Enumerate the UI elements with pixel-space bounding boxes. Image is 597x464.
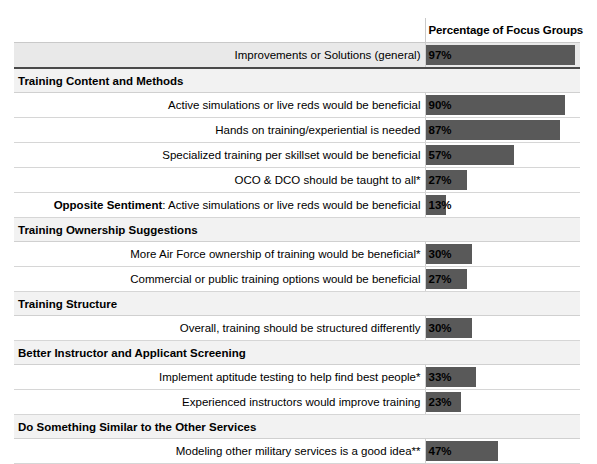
row-value-cell: 47% [425, 439, 580, 464]
table-row: Experienced instructors would improve tr… [14, 390, 580, 415]
row-label: Hands on training/experiential is needed [14, 118, 425, 143]
row-value-cell: 27% [425, 168, 580, 193]
value-label: 47% [429, 440, 452, 462]
row-label-text: More Air Force ownership of training wou… [130, 248, 420, 260]
row-value-cell: 30% [425, 242, 580, 267]
row-label-text: Implement aptitude testing to help find … [159, 371, 420, 383]
row-label-text: Hands on training/experiential is needed [215, 124, 420, 136]
bar-wrapper: 90% [426, 94, 581, 116]
row-label: More Air Force ownership of training wou… [14, 242, 425, 267]
header-label-cell [14, 18, 425, 43]
table-row: Specialized training per skillset would … [14, 143, 580, 168]
section-header-row: Do Something Similar to the Other Servic… [14, 415, 580, 439]
table-row: OCO & DCO should be taught to all*27% [14, 168, 580, 193]
section-header-row: Better Instructor and Applicant Screenin… [14, 341, 580, 365]
row-label-text: Overall, training should be structured d… [180, 322, 421, 334]
bar-wrapper: 30% [426, 243, 581, 265]
table-row: Overall, training should be structured d… [14, 316, 580, 341]
value-label: 27% [429, 169, 452, 191]
row-label-lead: Opposite Sentiment [54, 199, 163, 211]
row-label: Implement aptitude testing to help find … [14, 365, 425, 390]
row-value-cell: 23% [425, 390, 580, 415]
row-label: Commercial or public training options wo… [14, 267, 425, 292]
value-label: 30% [429, 317, 452, 339]
row-value-cell: 87% [425, 118, 580, 143]
row-label-text: OCO & DCO should be taught to all* [234, 174, 420, 186]
row-label-text: Improvements or Solutions (general) [235, 49, 421, 61]
section-title: Better Instructor and Applicant Screenin… [14, 341, 580, 365]
table-body: Percentage of Focus Groups Improvements … [14, 18, 580, 464]
bar-wrapper: 27% [426, 169, 581, 191]
bar-wrapper: 87% [426, 119, 581, 141]
value-label: 30% [429, 243, 452, 265]
bar-wrapper: 57% [426, 144, 581, 166]
row-label-text: : Active simulations or live reds would … [162, 199, 420, 211]
bar-wrapper: 13% [426, 194, 581, 216]
header-percentage-of-focus-groups: Percentage of Focus Groups [425, 18, 580, 43]
value-label: 90% [429, 94, 452, 116]
value-label: 27% [429, 268, 452, 290]
value-label: 13% [429, 194, 452, 216]
row-value-cell: 90% [425, 93, 580, 118]
row-label: Improvements or Solutions (general) [14, 43, 425, 69]
bar-wrapper: 30% [426, 317, 581, 339]
section-title: Training Ownership Suggestions [14, 218, 580, 242]
value-label: 23% [429, 391, 452, 413]
section-title: Training Structure [14, 292, 580, 316]
section-title: Do Something Similar to the Other Servic… [14, 415, 580, 439]
section-header-row: Training Content and Methods [14, 68, 580, 93]
row-value-cell: 27% [425, 267, 580, 292]
row-label: Specialized training per skillset would … [14, 143, 425, 168]
row-label-text: Modeling other military services is a go… [176, 445, 421, 457]
table-row: Commercial or public training options wo… [14, 267, 580, 292]
table-row: Improvements or Solutions (general)97% [14, 43, 580, 69]
data-table: Percentage of Focus Groups Improvements … [14, 18, 580, 464]
row-label-text: Specialized training per skillset would … [162, 149, 420, 161]
bar-wrapper: 27% [426, 268, 581, 290]
row-label: Experienced instructors would improve tr… [14, 390, 425, 415]
row-label-text: Commercial or public training options wo… [130, 273, 420, 285]
table-row: Active simulations or live reds would be… [14, 93, 580, 118]
row-label: Overall, training should be structured d… [14, 316, 425, 341]
table-row: Modeling other military services is a go… [14, 439, 580, 464]
value-label: 97% [429, 44, 452, 66]
section-title: Training Content and Methods [14, 68, 580, 93]
bar-wrapper: 47% [426, 440, 581, 462]
row-value-cell: 13% [425, 193, 580, 218]
bar-wrapper: 23% [426, 391, 581, 413]
row-value-cell: 57% [425, 143, 580, 168]
table-row: More Air Force ownership of training wou… [14, 242, 580, 267]
row-label: Modeling other military services is a go… [14, 439, 425, 464]
row-label: Opposite Sentiment: Active simulations o… [14, 193, 425, 218]
section-header-row: Training Ownership Suggestions [14, 218, 580, 242]
bar-wrapper: 33% [426, 366, 581, 388]
row-value-cell: 30% [425, 316, 580, 341]
table-header-row: Percentage of Focus Groups [14, 18, 580, 43]
row-label-text: Active simulations or live reds would be… [168, 99, 420, 111]
value-label: 57% [429, 144, 452, 166]
row-value-cell: 33% [425, 365, 580, 390]
table-row: Hands on training/experiential is needed… [14, 118, 580, 143]
row-label: OCO & DCO should be taught to all* [14, 168, 425, 193]
row-label: Active simulations or live reds would be… [14, 93, 425, 118]
table-row: Opposite Sentiment: Active simulations o… [14, 193, 580, 218]
section-header-row: Training Structure [14, 292, 580, 316]
focus-group-percentage-table: Percentage of Focus Groups Improvements … [14, 18, 580, 464]
value-label: 87% [429, 119, 452, 141]
bar-wrapper: 97% [426, 44, 581, 66]
table-row: Implement aptitude testing to help find … [14, 365, 580, 390]
value-label: 33% [429, 366, 452, 388]
row-value-cell: 97% [425, 43, 580, 69]
row-label-text: Experienced instructors would improve tr… [182, 396, 420, 408]
